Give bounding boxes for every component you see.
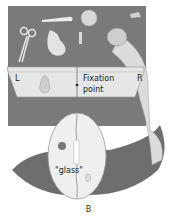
scissors-icon bbox=[19, 28, 36, 63]
right-field-label: R bbox=[137, 74, 143, 83]
brain-word-label: "glass" bbox=[55, 166, 83, 175]
fixation-label-line1: Fixation bbox=[83, 74, 114, 83]
figure-caption: B bbox=[0, 205, 177, 214]
split-brain-illustration bbox=[0, 0, 177, 222]
fixation-label-line2: point bbox=[83, 85, 103, 94]
left-field-label: L bbox=[15, 74, 19, 83]
